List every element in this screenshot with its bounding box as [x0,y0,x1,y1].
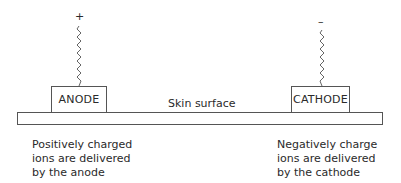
cathode-label: CATHODE [293,93,348,106]
anode-wire [77,26,81,86]
cathode-wire [320,30,324,86]
cathode-box: CATHODE [291,86,350,113]
anode-caption: Positively charged ions are delivered by… [32,138,132,180]
skin-surface-label: Skin surface [168,97,236,111]
anode-label: ANODE [59,93,100,106]
anode-box: ANODE [51,86,107,113]
anode-positive-sign: + [75,11,84,22]
cathode-negative-sign: – [318,16,324,27]
skin-surface-bar [17,112,383,125]
cathode-caption: Negatively charge ions are delivered by … [277,138,377,180]
